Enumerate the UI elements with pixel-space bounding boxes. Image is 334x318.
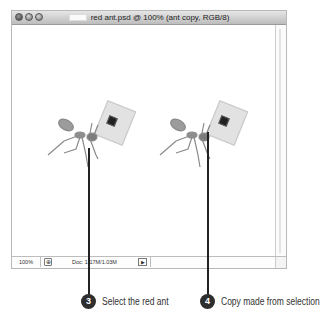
callout-line-3: [88, 148, 90, 300]
ant-image-copy[interactable]: [154, 97, 254, 167]
vertical-scrollbar[interactable]: [275, 25, 286, 257]
ant-icon: [48, 101, 136, 167]
ant-image-original[interactable]: [42, 97, 142, 167]
callout-line-4: [207, 132, 209, 300]
horizontal-scrollbar[interactable]: [150, 257, 276, 267]
step-badge: 3: [81, 294, 96, 309]
scroll-track[interactable]: [279, 29, 281, 253]
status-bar: 100% ⊕ Doc: 1.17M/1.03M ▶: [12, 256, 286, 268]
preview-icon[interactable]: ⊕: [44, 258, 52, 266]
ant-copy-icon: [160, 101, 248, 167]
zoom-level-field[interactable]: 100%: [12, 257, 41, 267]
callout-4: 4 Copy made from selection: [200, 294, 334, 309]
document-window: red ant.psd @ 100% (ant copy, RGB/8): [11, 10, 287, 269]
step-badge: 4: [200, 294, 215, 309]
canvas[interactable]: [12, 25, 276, 257]
window-title-text: red ant.psd @ 100% (ant copy, RGB/8): [91, 13, 230, 22]
title-bar[interactable]: red ant.psd @ 100% (ant copy, RGB/8): [12, 11, 286, 25]
document-proxy-icon[interactable]: [69, 14, 87, 21]
status-menu-arrow-icon[interactable]: ▶: [138, 258, 147, 266]
callout-text: Select the red ant: [102, 296, 169, 307]
resize-handle[interactable]: [275, 257, 286, 268]
callout-3: 3 Select the red ant: [81, 294, 180, 309]
window-title: red ant.psd @ 100% (ant copy, RGB/8): [12, 11, 286, 24]
callout-text: Copy made from selection: [221, 296, 320, 307]
document-size-info: Doc: 1.17M/1.03M: [72, 257, 117, 267]
